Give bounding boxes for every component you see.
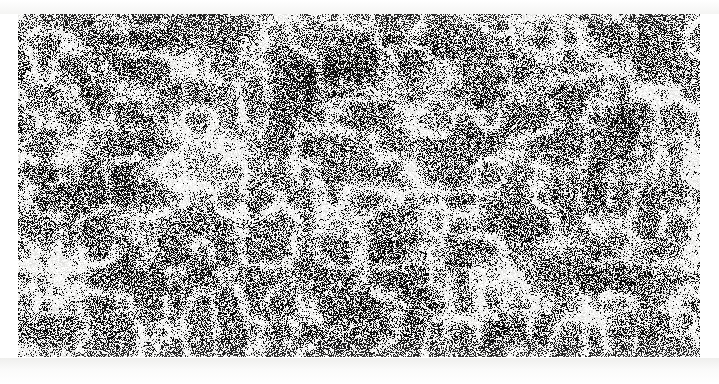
- top-margin-smudge: [0, 0, 719, 14]
- bottom-margin-smudge: [0, 358, 719, 384]
- noise-field-image: [18, 14, 700, 357]
- page-canvas: [0, 0, 719, 384]
